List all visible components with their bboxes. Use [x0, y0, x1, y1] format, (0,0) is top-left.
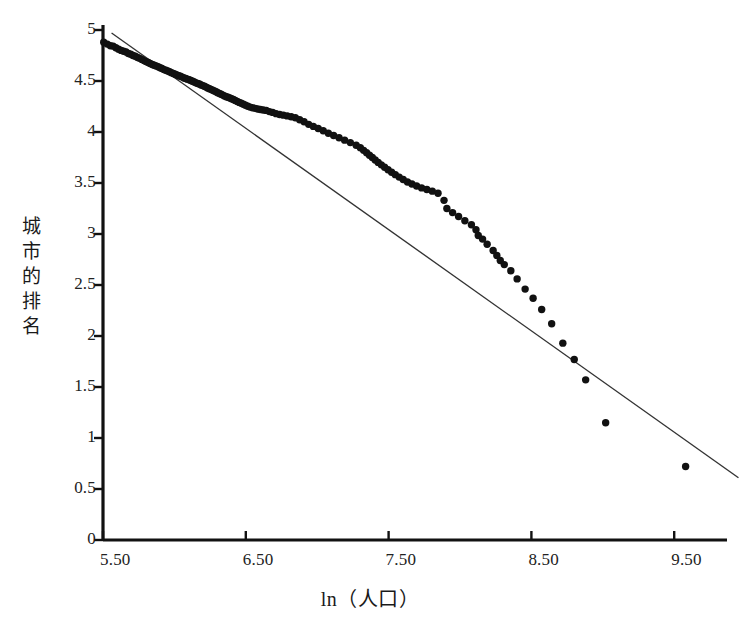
- y-tick-label: 4: [52, 121, 96, 141]
- data-point: [521, 285, 528, 292]
- y-axis-title-char: 市: [18, 239, 44, 264]
- data-point: [559, 339, 566, 346]
- x-tick-label: 9.50: [671, 550, 702, 570]
- figure-caption: [0, 627, 740, 638]
- data-point: [682, 463, 689, 470]
- chart-figure: 00.511.522.533.544.55 5.506.507.508.509.…: [0, 0, 740, 638]
- axes: [103, 25, 727, 540]
- y-tick-label: 5: [52, 19, 96, 39]
- regression-line: [112, 33, 739, 478]
- y-axis-title-char: 排: [18, 289, 44, 314]
- x-tick-label: 8.50: [528, 550, 559, 570]
- data-point: [455, 213, 462, 220]
- y-tick-label: 0.5: [52, 478, 96, 498]
- y-tick-label: 4.5: [52, 70, 96, 90]
- axis-ticks: [94, 30, 674, 540]
- y-axis-title-char: 名: [18, 314, 44, 339]
- data-point: [538, 306, 545, 313]
- x-axis-title: ln（人口）: [0, 583, 740, 612]
- y-tick-label: 0: [52, 529, 96, 549]
- y-tick-label: 3.5: [52, 172, 96, 192]
- data-point: [548, 320, 555, 327]
- x-tick-label: 5.50: [100, 550, 131, 570]
- data-point: [507, 267, 514, 274]
- data-point: [602, 419, 609, 426]
- x-tick-label: 6.50: [243, 550, 274, 570]
- y-axis-title-char: 的: [18, 264, 44, 289]
- x-tick-label: 7.50: [386, 550, 417, 570]
- data-point: [513, 275, 520, 282]
- data-point: [434, 190, 441, 197]
- y-tick-label: 1: [52, 427, 96, 447]
- y-tick-label: 3: [52, 223, 96, 243]
- fit-line: [112, 33, 739, 478]
- y-tick-label: 2.5: [52, 274, 96, 294]
- y-tick-label: 2: [52, 325, 96, 345]
- data-point: [501, 261, 508, 268]
- y-tick-label: 1.5: [52, 376, 96, 396]
- data-points: [100, 39, 689, 471]
- data-point: [571, 356, 578, 363]
- data-point: [440, 197, 447, 204]
- scatter-plot-canvas: [0, 0, 740, 638]
- data-point: [582, 376, 589, 383]
- data-point: [483, 241, 490, 248]
- data-point: [461, 217, 468, 224]
- data-point: [529, 295, 536, 302]
- y-axis-title-char: 城: [18, 214, 44, 239]
- y-axis-title: 城市的排名: [18, 214, 44, 339]
